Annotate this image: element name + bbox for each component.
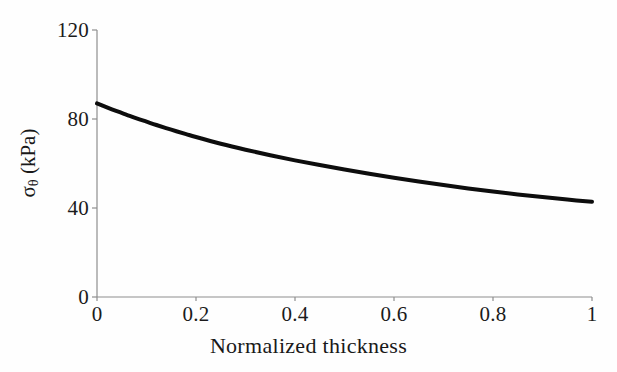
y-axis-title: σθ (kPa) (16, 93, 42, 233)
y-axis-title-units: (kPa) (16, 129, 40, 180)
x-tick-label-0-4: 0.4 (270, 302, 320, 327)
data-curve-hoop-stress (97, 103, 592, 201)
y-axis-title-symbol: σ (16, 186, 40, 197)
figure-panel: 120 80 40 0 0 0.2 0.4 0.6 0.8 1 Normaliz… (0, 0, 617, 372)
axis-lines (97, 30, 592, 297)
x-tick-label-0: 0 (82, 302, 112, 327)
x-axis-title: Normalized thickness (0, 333, 617, 359)
y-tick-label-40: 40 (68, 196, 89, 221)
y-axis-title-subscript: θ (25, 179, 41, 186)
x-tick-label-0-6: 0.6 (369, 302, 419, 327)
x-tick-label-0-8: 0.8 (468, 302, 518, 327)
y-tick-marks (92, 30, 97, 297)
x-tick-label-1: 1 (577, 302, 607, 327)
x-tick-label-0-2: 0.2 (171, 302, 221, 327)
y-tick-label-120: 120 (57, 18, 89, 43)
y-tick-label-80: 80 (68, 107, 89, 132)
